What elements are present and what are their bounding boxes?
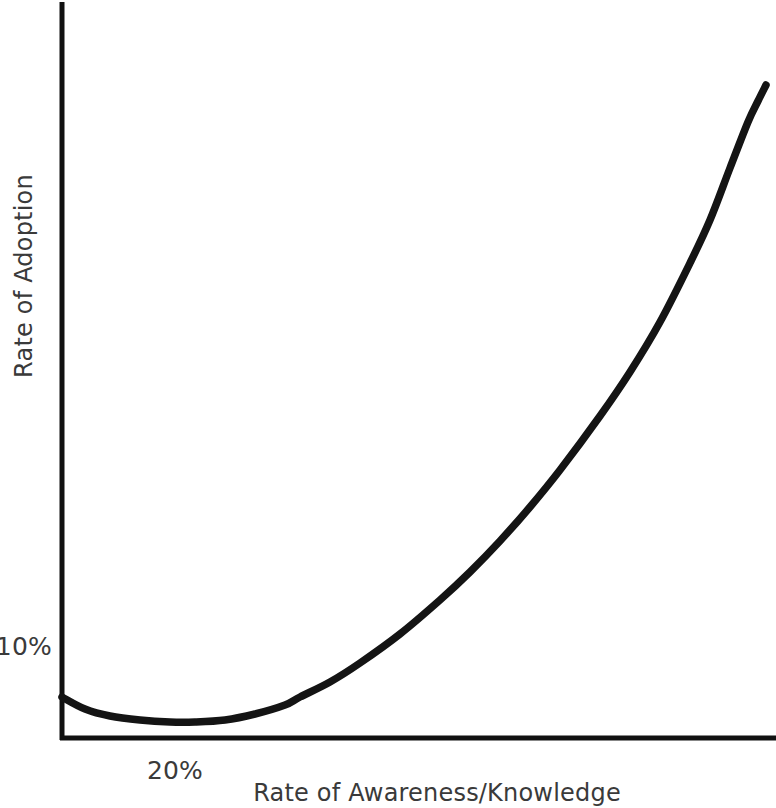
- x-tick-label-20: 20%: [147, 756, 203, 785]
- x-axis-title: Rate of Awareness/Knowledge: [253, 779, 621, 807]
- y-axis-title: Rate of Adoption: [10, 174, 38, 378]
- chart-background: [0, 0, 776, 808]
- chart-figure: 10% 20% Rate of Adoption Rate of Awarene…: [0, 0, 776, 808]
- y-tick-label-10: 10%: [0, 632, 52, 661]
- chart-canvas: 10% 20% Rate of Adoption Rate of Awarene…: [0, 0, 776, 808]
